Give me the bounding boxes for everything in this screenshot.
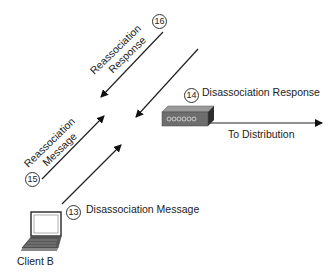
step-number-14: 14	[184, 88, 199, 103]
disassociation-message-label: Disassociation Message	[86, 203, 199, 215]
step-number-16: 16	[152, 14, 167, 29]
to-distribution-label: To Distribution	[228, 128, 295, 140]
access-point-icon	[162, 106, 214, 126]
step-number-13: 13	[66, 205, 81, 220]
disassociation-response-label: Disassociation Response	[202, 86, 320, 98]
client-b-label: Client B	[17, 255, 54, 267]
arrow-disassociation-message	[62, 145, 121, 204]
laptop-icon	[21, 212, 61, 251]
